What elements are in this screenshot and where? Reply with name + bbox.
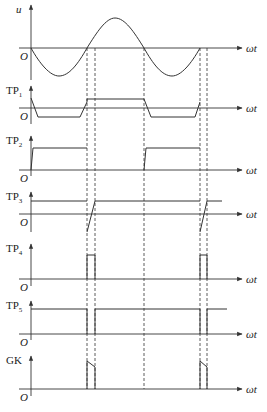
x-axis-label: ωt [246,383,258,395]
x-axis-label: ωt [246,42,258,54]
waveform-diagram: uOωtTP1OωtTP2OωtTP3OωtTP4OωtTP5OωtGKOωt [0,0,267,412]
x-axis-label: ωt [246,328,258,340]
panel-tp4: TP4Oωt [6,242,258,293]
timing-waveforms-svg: uOωtTP1OωtTP2OωtTP3OωtTP4OωtTP5OωtGKOωt [0,0,267,412]
signal-label-tp1: TP1 [6,84,23,99]
waveform-tp1 [31,98,200,117]
waveform-panels: uOωtTP1OωtTP2OωtTP3OωtTP4OωtTP5OωtGKOωt [6,3,258,403]
signal-label-tp4: TP4 [6,242,23,257]
signal-label-tp5: TP5 [6,299,23,314]
panel-tp3: TP3Oωt [6,190,258,232]
origin-label: O [20,216,28,228]
x-axis-label: ωt [246,102,258,114]
origin-label: O [20,281,28,293]
waveform-tp5 [31,309,227,334]
waveform-tp4 [87,255,207,279]
x-axis-label: ωt [246,164,258,176]
origin-label: O [20,172,28,184]
origin-label: O [20,50,28,62]
signal-label-u: u [16,3,22,15]
waveform-gk [87,361,207,389]
origin-label: O [20,336,28,348]
signal-label-tp3: TP3 [6,190,23,205]
origin-label: O [20,391,28,403]
x-axis-label: ωt [246,273,258,285]
panel-tp1: TP1Oωt [6,84,258,124]
waveform-tp2 [31,148,200,170]
waveform-u [31,18,200,76]
panel-tp5: TP5Oωt [6,299,258,348]
x-axis-label: ωt [246,208,258,220]
signal-label-tp2: TP2 [6,134,23,149]
panel-gk: GKOωt [6,354,258,403]
signal-label-gk: GK [6,354,22,366]
panel-tp2: TP2Oωt [6,134,258,184]
waveform-tp3 [31,201,222,232]
origin-label: O [20,110,28,122]
panel-u: uOωt [16,3,258,80]
